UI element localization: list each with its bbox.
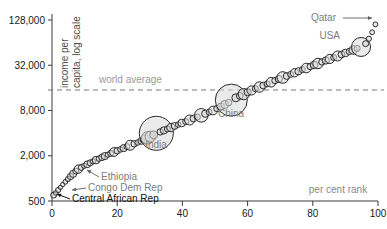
annotation-label-india: India [145, 139, 167, 150]
x-tick-label: 20 [112, 208, 124, 219]
annotation-label-central-african-rep: Central African Rep [72, 193, 159, 204]
annotation-label-qatar: Qatar [311, 12, 337, 23]
x-tick-label: 60 [242, 208, 254, 219]
y-axis-title: income percapita, log scale [59, 16, 82, 88]
x-tick-label: 80 [307, 208, 319, 219]
y-tick-label: 32,000 [14, 60, 45, 71]
x-tick-label: 40 [177, 208, 189, 219]
x-axis-title: per cent rank [309, 184, 368, 195]
y-tick-label: 2,000 [20, 150, 45, 161]
annotation-arrowhead [368, 16, 372, 20]
income-percentile-bubble-chart: 5002,0008,00032,000128,000020406080100wo… [0, 0, 387, 229]
y-tick-label: 500 [28, 196, 45, 207]
y-axis-title-line: capita, log scale [71, 16, 82, 88]
world-average-label: world average [98, 74, 162, 85]
x-tick-label: 100 [370, 208, 387, 219]
y-axis-title-line: income per [59, 38, 70, 88]
y-tick-label: 128,000 [9, 15, 46, 26]
annotation-label-usa: USA [319, 30, 340, 41]
x-tick-label: 0 [49, 208, 55, 219]
chart-canvas: 5002,0008,00032,000128,000020406080100wo… [0, 0, 387, 229]
y-tick-label: 8,000 [20, 105, 45, 116]
data-bubble [366, 36, 371, 41]
annotation-label-ethiopia: Ethiopia [101, 171, 138, 182]
data-bubble [373, 22, 378, 27]
annotation-label-china: China [218, 108, 245, 119]
data-bubble [370, 30, 375, 35]
annotation-label-congo-dem-rep: Congo Dem Rep [88, 182, 163, 193]
